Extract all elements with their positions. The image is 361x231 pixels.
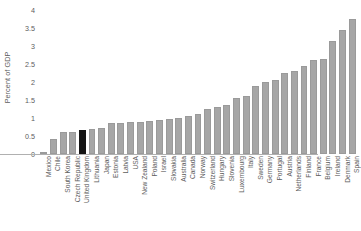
x-axis-tick-label: Switzerland <box>203 156 212 228</box>
bar <box>50 139 57 154</box>
y-axis-tick-label: 0.5 <box>25 132 35 141</box>
x-axis-tick-label: Slovenia <box>222 156 231 228</box>
bar <box>214 107 221 154</box>
x-axis-tick-label-text: Spain <box>352 156 361 173</box>
y-axis-tick-label: 3.5 <box>25 24 35 33</box>
bar <box>127 122 134 154</box>
bar <box>185 116 192 154</box>
x-axis-tick-label: Denmark <box>338 156 347 228</box>
bar <box>339 30 346 154</box>
bar <box>195 114 202 154</box>
bar <box>79 130 86 154</box>
bar <box>281 73 288 154</box>
y-axis-tick-label: 1 <box>31 114 35 123</box>
x-axis-tick-label: Netherlands <box>290 156 299 228</box>
bar <box>137 122 144 154</box>
y-axis-tick-label: 2 <box>31 78 35 87</box>
plot-area <box>39 10 357 154</box>
bar <box>156 120 163 154</box>
x-axis-tick-label: Ireland <box>328 156 337 228</box>
x-axis-tick-label: France <box>309 156 318 228</box>
bar <box>223 105 230 154</box>
x-axis-tick-label: Sweden <box>251 156 260 228</box>
x-axis-tick-label: Portugal <box>271 156 280 228</box>
bar <box>166 119 173 154</box>
x-axis-tick-label: Italy <box>242 156 251 228</box>
y-axis-tick-label: 1.5 <box>25 96 35 105</box>
x-axis-tick-label: Belgium <box>319 156 328 228</box>
y-axis-title-text: Percent of GDP <box>4 52 13 104</box>
bar <box>69 132 76 154</box>
x-axis-tick-label: Israel <box>155 156 164 228</box>
x-axis-tick-label: Finland <box>300 156 309 228</box>
x-axis-line <box>0 154 318 155</box>
bar <box>262 82 269 154</box>
x-axis-tick-label: Slovakia <box>165 156 174 228</box>
x-axis-tick-labels: MexicoChileSouth KoreaCzech RepublicUnit… <box>39 156 357 231</box>
x-axis-tick-label: Japan <box>97 156 106 228</box>
bar <box>117 123 124 154</box>
bar <box>291 71 298 154</box>
y-axis-tick-label: 2.5 <box>25 60 35 69</box>
bar <box>252 86 259 154</box>
x-axis-tick-label: Canada <box>184 156 193 228</box>
bar <box>310 60 317 154</box>
bar <box>272 80 279 154</box>
bar <box>320 59 327 154</box>
bar <box>301 66 308 154</box>
x-axis-tick-label: Lithuania <box>88 156 97 228</box>
bar <box>108 123 115 154</box>
x-axis-tick-label: Norway <box>194 156 203 228</box>
x-axis-tick-label: Australia <box>174 156 183 228</box>
x-axis-tick-label: Latvia <box>116 156 125 228</box>
bar <box>89 129 96 154</box>
x-axis-tick-label: New Zealand <box>136 156 145 228</box>
x-axis-tick-label: Chile <box>49 156 58 228</box>
x-axis-tick-label: Austria <box>280 156 289 228</box>
bar <box>329 41 336 154</box>
bar <box>60 132 67 154</box>
y-axis-title: Percent of GDP <box>0 0 16 155</box>
x-axis-tick-label: Mexico <box>39 156 48 228</box>
x-axis-tick-label: South Korea <box>59 156 68 228</box>
bar-chart: Percent of GDP 00.511.522.533.54 MexicoC… <box>0 0 361 231</box>
x-axis-tick-label: Spain <box>348 156 357 228</box>
y-axis-tick-label: 4 <box>31 6 35 15</box>
bar <box>146 121 153 154</box>
x-axis-tick-label: United Kingdom <box>78 156 87 228</box>
y-axis-tick-label: 3 <box>31 42 35 51</box>
bar <box>349 19 356 154</box>
x-axis-tick-label: Poland <box>145 156 154 228</box>
x-axis-tick-label: Hungary <box>213 156 222 228</box>
x-axis-tick-label: Czech Republic <box>68 156 77 228</box>
bar <box>204 109 211 154</box>
x-axis-tick-label: Germany <box>261 156 270 228</box>
x-axis-tick-label: Luxembourg <box>232 156 241 228</box>
x-axis-tick-label: USA <box>126 156 135 228</box>
bar <box>233 98 240 154</box>
x-axis-tick-label: Estonia <box>107 156 116 228</box>
bar <box>243 96 250 154</box>
bar <box>98 128 105 154</box>
y-axis-tick-labels: 00.511.522.533.54 <box>16 0 38 155</box>
bar <box>175 118 182 154</box>
